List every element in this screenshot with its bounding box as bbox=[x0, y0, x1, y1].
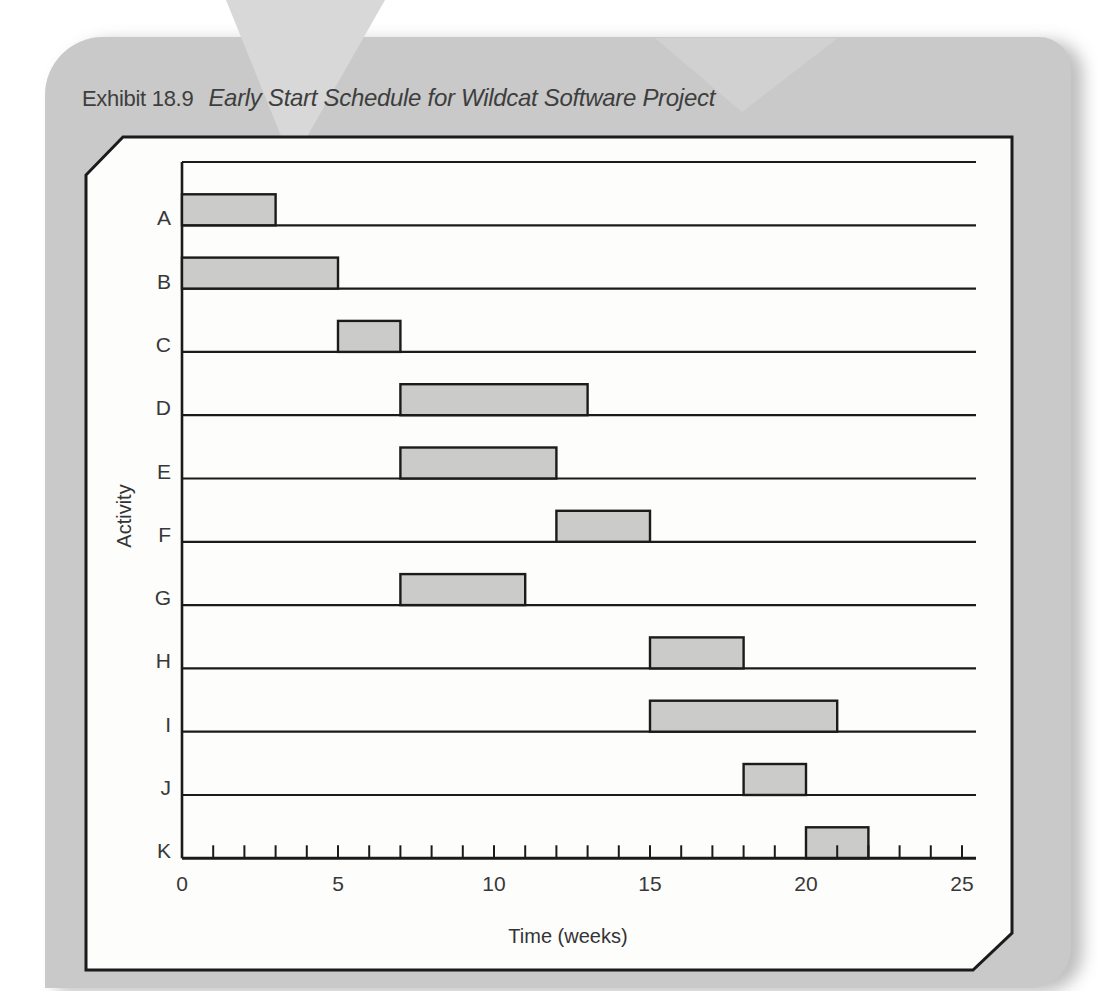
x-tick-label-15: 15 bbox=[638, 872, 661, 895]
activity-label-J: J bbox=[161, 776, 172, 799]
y-axis-title: Activity bbox=[113, 484, 135, 547]
bar-H bbox=[650, 637, 744, 668]
activity-label-A: A bbox=[157, 206, 171, 229]
activity-label-F: F bbox=[158, 523, 171, 546]
exhibit-title: Early Start Schedule for Wildcat Softwar… bbox=[208, 84, 715, 111]
activity-label-D: D bbox=[156, 396, 171, 419]
activity-label-I: I bbox=[165, 713, 171, 736]
bar-F bbox=[556, 511, 650, 542]
x-axis-title: Time (weeks) bbox=[508, 925, 627, 947]
activity-label-K: K bbox=[157, 839, 171, 862]
x-tick-label-25: 25 bbox=[950, 872, 973, 895]
bar-E bbox=[400, 448, 556, 479]
activity-label-B: B bbox=[157, 270, 171, 293]
bar-D bbox=[400, 384, 587, 415]
bar-B bbox=[182, 258, 338, 289]
x-tick-label-20: 20 bbox=[794, 872, 817, 895]
exhibit-label: Exhibit 18.9 bbox=[82, 86, 193, 111]
activity-label-H: H bbox=[156, 649, 171, 672]
exhibit-header: Exhibit 18.9Early Start Schedule for Wil… bbox=[82, 84, 715, 112]
x-tick-label-10: 10 bbox=[482, 872, 505, 895]
bar-I bbox=[650, 701, 837, 732]
activity-label-G: G bbox=[155, 586, 171, 609]
bar-J bbox=[744, 764, 806, 795]
figure-canvas: 0510152025ABCDEFGHIJK Activity Time (wee… bbox=[0, 0, 1097, 991]
activity-label-C: C bbox=[156, 333, 171, 356]
activity-label-E: E bbox=[157, 460, 171, 483]
x-tick-label-5: 5 bbox=[332, 872, 344, 895]
page: 0510152025ABCDEFGHIJK Activity Time (wee… bbox=[0, 0, 1097, 991]
bar-C bbox=[338, 321, 400, 352]
bar-G bbox=[400, 574, 525, 605]
x-tick-label-0: 0 bbox=[176, 872, 188, 895]
bar-A bbox=[182, 194, 276, 225]
